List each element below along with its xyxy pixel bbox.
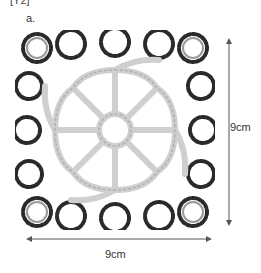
width-dimension-label: 9cm xyxy=(105,248,126,260)
clipped-header-text: [Y2] xyxy=(10,0,30,6)
crochet-motif-image xyxy=(15,30,215,230)
width-dimension-arrow xyxy=(26,234,212,244)
height-dimension-label: 9cm xyxy=(230,121,251,133)
figure-label: a. xyxy=(26,12,35,24)
